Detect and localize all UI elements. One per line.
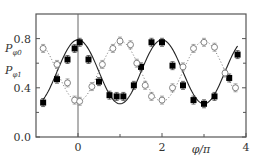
data-point-p1 [191, 45, 197, 51]
data-point-p1 [233, 85, 239, 91]
y-tick-label: 0.4 [14, 82, 32, 95]
data-point-p0 [149, 39, 155, 45]
data-point-p1 [180, 64, 186, 70]
data-point-p1 [77, 98, 83, 104]
data-point-p0 [65, 57, 71, 63]
data-point-p1 [117, 38, 123, 44]
data-point-p1 [142, 82, 148, 88]
x-tick-label: 0 [75, 141, 82, 154]
data-point-p0 [131, 82, 137, 88]
x-tick-label: 4 [243, 141, 250, 154]
data-point-p1 [110, 45, 116, 51]
x-axis-label: φ/π [192, 143, 211, 156]
data-point-p0 [180, 82, 186, 88]
data-point-p1 [89, 84, 95, 90]
data-point-p0 [96, 79, 102, 85]
data-point-p1 [65, 80, 71, 86]
x-tick-label: 2 [159, 141, 166, 154]
data-point-p1 [40, 45, 46, 51]
data-point-p1 [128, 42, 134, 48]
y-tick-label: 0.0 [14, 131, 32, 144]
data-point-p0 [86, 57, 92, 63]
data-point-p1 [159, 97, 165, 103]
data-point-p0 [77, 39, 83, 45]
plot-border [36, 14, 246, 137]
chart: 0240.00.40.8 Pφ0 Pφ1 φ/π [0, 0, 260, 162]
data-point-p0 [159, 39, 165, 45]
data-point-p1 [222, 70, 228, 76]
data-point-p0 [191, 97, 197, 103]
axis-ticks [36, 39, 246, 137]
data-point-p0 [235, 52, 241, 58]
data-point-p0 [107, 92, 113, 98]
data-point-p1 [170, 85, 176, 91]
data-point-p0 [40, 100, 46, 106]
data-point-p0 [114, 93, 120, 99]
data-point-p1 [212, 44, 218, 50]
data-point-p1 [54, 61, 60, 67]
data-point-p0 [212, 93, 218, 99]
plot-frame [36, 14, 246, 137]
data-point-p1 [99, 61, 105, 67]
y-tick-label: 0.8 [14, 33, 32, 46]
data-point-p0 [72, 45, 78, 51]
data-point-p0 [170, 63, 176, 69]
data-point-p1 [201, 39, 207, 45]
data-point-p0 [54, 76, 60, 82]
legend-p1: Pφ1 [4, 64, 22, 79]
data-point-p0 [226, 75, 232, 81]
data-point-p1 [134, 60, 140, 66]
data-point-p0 [201, 101, 207, 107]
data-point-p0 [120, 93, 126, 99]
data-point-p1 [149, 93, 155, 99]
